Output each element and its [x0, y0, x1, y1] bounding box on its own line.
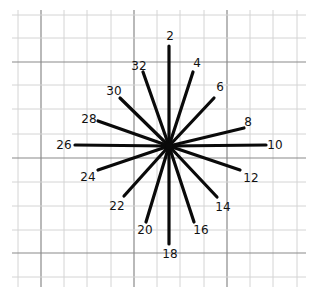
ray-label-28: 28	[81, 112, 96, 126]
ray-label-24: 24	[80, 170, 95, 184]
ray-label-2: 2	[166, 29, 174, 43]
ray-label-10: 10	[267, 138, 282, 152]
ray-label-14: 14	[215, 200, 230, 214]
ray-label-8: 8	[244, 115, 252, 129]
ray-label-20: 20	[137, 223, 152, 237]
ray-label-22: 22	[109, 199, 124, 213]
ray-label-26: 26	[56, 138, 71, 152]
ray-label-18: 18	[162, 247, 177, 261]
ray-label-16: 16	[193, 223, 208, 237]
diagram-svg: 2468101214161820222426283032	[0, 0, 315, 297]
center-hub	[166, 143, 173, 150]
ray-label-6: 6	[216, 80, 224, 94]
ray-label-30: 30	[106, 84, 121, 98]
ray-10	[169, 145, 266, 146]
ray-label-12: 12	[243, 171, 258, 185]
ray-26	[75, 145, 169, 146]
ray-label-32: 32	[131, 59, 146, 73]
ray-label-4: 4	[193, 56, 201, 70]
radial-star-diagram: 2468101214161820222426283032	[0, 0, 315, 297]
